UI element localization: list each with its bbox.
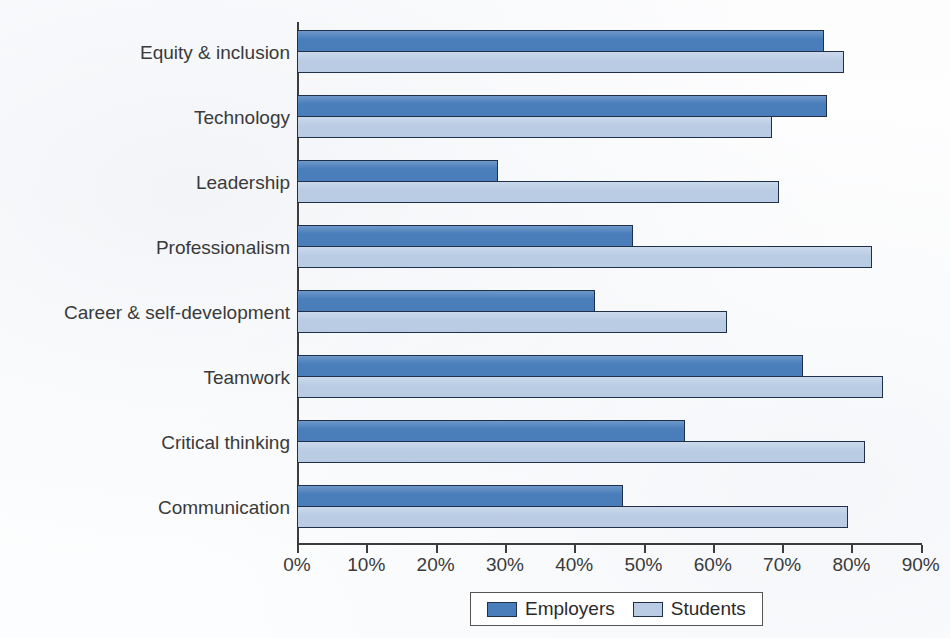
tick-label: 20%	[401, 554, 471, 576]
bar-employers	[297, 30, 824, 52]
category-label: Leadership	[0, 172, 290, 194]
tick-mark	[505, 545, 507, 553]
tick-mark	[297, 545, 299, 553]
legend-swatch-students	[633, 602, 663, 617]
bar-students	[297, 441, 865, 463]
bar-students	[297, 506, 848, 528]
legend-entry: Students	[633, 598, 746, 620]
bar-group	[297, 355, 922, 401]
category-label: Equity & inclusion	[0, 42, 290, 64]
tick-label: 30%	[470, 554, 540, 576]
bar-employers	[297, 485, 623, 507]
tick-label: 60%	[678, 554, 748, 576]
legend-swatch-employers	[487, 602, 517, 617]
tick-mark	[782, 545, 784, 553]
bar-employers	[297, 355, 803, 377]
bar-employers	[297, 225, 633, 247]
tick-label: 10%	[331, 554, 401, 576]
bar-employers	[297, 160, 498, 182]
bar-group	[297, 30, 922, 76]
tick-label: 0%	[262, 554, 332, 576]
bar-group	[297, 485, 922, 531]
tick-label: 40%	[539, 554, 609, 576]
bar-group	[297, 290, 922, 336]
category-label: Career & self-development	[0, 302, 290, 324]
grouped-bar-chart: Equity & inclusionTechnologyLeadershipPr…	[0, 0, 950, 638]
chart-legend: EmployersStudents	[470, 592, 763, 626]
category-label: Teamwork	[0, 367, 290, 389]
category-label: Professionalism	[0, 237, 290, 259]
tick-mark	[921, 545, 923, 553]
tick-mark	[644, 545, 646, 553]
category-label: Communication	[0, 497, 290, 519]
bar-students	[297, 51, 844, 73]
bar-employers	[297, 420, 685, 442]
legend-label: Students	[671, 598, 746, 620]
bar-employers	[297, 290, 595, 312]
tick-label: 50%	[609, 554, 679, 576]
category-label: Technology	[0, 107, 290, 129]
bar-employers	[297, 95, 827, 117]
bar-group	[297, 420, 922, 466]
tick-label: 80%	[816, 554, 886, 576]
bar-students	[297, 311, 727, 333]
tick-mark	[574, 545, 576, 553]
chart-title	[300, 0, 940, 2]
tick-label: 70%	[747, 554, 817, 576]
bar-students	[297, 376, 883, 398]
legend-entry: Employers	[487, 598, 615, 620]
tick-mark	[366, 545, 368, 553]
bar-group	[297, 95, 922, 141]
bar-group	[297, 160, 922, 206]
category-axis-line	[297, 543, 922, 545]
legend-label: Employers	[525, 598, 615, 620]
bar-students	[297, 246, 872, 268]
category-label: Critical thinking	[0, 432, 290, 454]
bar-students	[297, 116, 772, 138]
bar-students	[297, 181, 779, 203]
tick-mark	[713, 545, 715, 553]
tick-mark	[851, 545, 853, 553]
tick-mark	[436, 545, 438, 553]
tick-label: 90%	[886, 554, 950, 576]
bar-group	[297, 225, 922, 271]
